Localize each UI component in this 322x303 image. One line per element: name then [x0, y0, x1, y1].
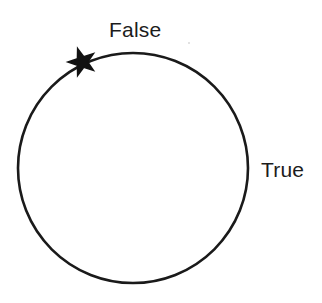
state-circle-diagram [0, 0, 322, 303]
label-true: True [261, 159, 304, 180]
scan-artifact-speck [188, 42, 190, 44]
state-circle [18, 53, 248, 283]
label-false: False [109, 19, 161, 40]
diagram-canvas: False True [0, 0, 322, 303]
